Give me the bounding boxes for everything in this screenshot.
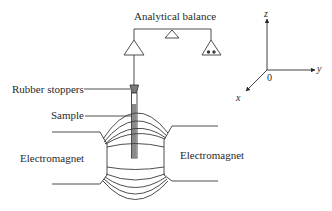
electromagnet-right-label: Electromagnet: [180, 150, 244, 161]
analytical-balance-label: Analytical balance: [134, 11, 216, 22]
y-axis-label: y: [317, 64, 321, 74]
gouy-balance-diagram: Analytical balance Rubber stoppers Sampl…: [0, 0, 332, 211]
rubber-stoppers-label: Rubber stoppers: [12, 84, 84, 95]
sample-tube: [132, 93, 138, 158]
rubber-stopper-icon: [130, 85, 139, 93]
z-axis-label: z: [264, 9, 268, 19]
sample-label: Sample: [51, 110, 84, 121]
electromagnet-left-label: Electromagnet: [20, 153, 84, 164]
coordinate-axes: [246, 19, 315, 91]
fulcrum-icon: [165, 30, 179, 38]
left-pan-icon: [124, 40, 144, 55]
right-pan-with-weights-icon: [202, 40, 221, 55]
x-axis: [246, 70, 267, 91]
diagram-graphics: [0, 0, 332, 211]
x-axis-label: x: [236, 93, 240, 103]
origin-label: 0: [267, 73, 272, 83]
